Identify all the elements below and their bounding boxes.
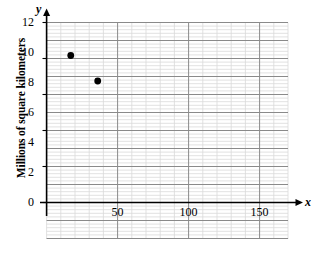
y-tick-label-6: 6 [14, 105, 34, 120]
y-tick-label-0: 0 [14, 195, 34, 210]
data-point [94, 78, 101, 85]
y-tick-label-10: 10 [14, 45, 34, 60]
scatter-plot-figure: Millions of square kilometers 12 10 8 6 … [0, 0, 316, 254]
y-tick-label-4: 4 [14, 135, 34, 150]
data-point [67, 52, 74, 59]
y-tick-label-8: 8 [14, 75, 34, 90]
x-axis-arrowhead [296, 199, 304, 206]
x-axis-name: x [305, 195, 311, 210]
x-tick-label-50: 50 [105, 205, 131, 220]
y-tick-label-12: 12 [14, 15, 34, 30]
x-tick-label-150: 150 [247, 205, 273, 220]
x-tick-label-100: 100 [176, 205, 202, 220]
y-axis-arrowhead [43, 9, 50, 17]
y-axis-name: y [36, 2, 41, 17]
y-tick-label-2: 2 [14, 165, 34, 180]
data-points [67, 52, 101, 84]
